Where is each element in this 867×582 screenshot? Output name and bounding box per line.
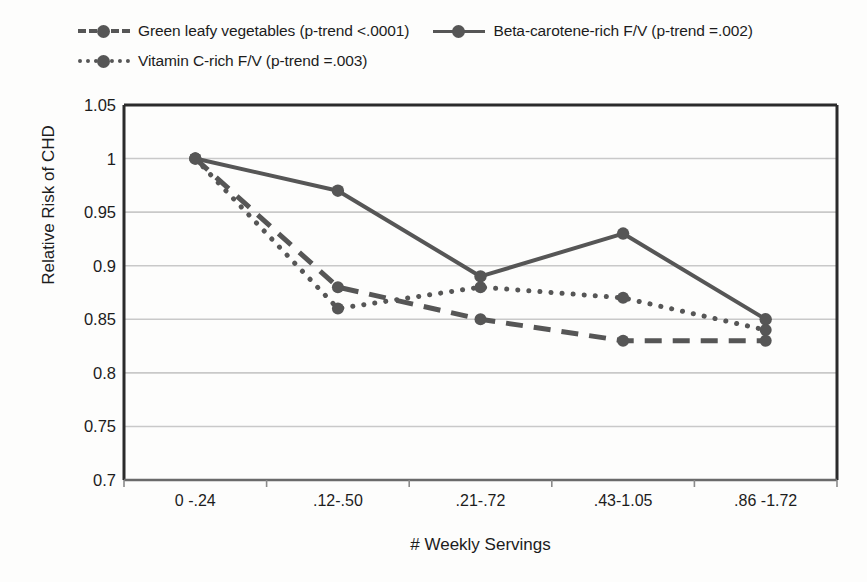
x-tick-label: 0 -.24 xyxy=(175,492,216,510)
x-tick-label: .21-.72 xyxy=(456,492,506,510)
series-line-2 xyxy=(195,159,765,330)
data-point xyxy=(760,324,772,336)
data-point xyxy=(475,313,487,325)
plot-area: Relative Risk of CHD 0.70.750.80.850.90.… xyxy=(0,0,867,582)
x-tick-label: .86 -1.72 xyxy=(734,492,797,510)
data-point xyxy=(617,335,629,347)
x-tick-label: .12-.50 xyxy=(313,492,363,510)
data-point xyxy=(475,281,487,293)
data-point xyxy=(617,292,629,304)
data-point xyxy=(332,281,344,293)
data-point xyxy=(332,185,344,197)
data-point xyxy=(332,303,344,315)
x-axis-title: # Weekly Servings xyxy=(124,535,837,555)
data-point xyxy=(760,313,772,325)
chart-figure: Green leafy vegetables (p-trend <.0001) … xyxy=(0,0,867,582)
data-point xyxy=(617,227,629,239)
series-markers xyxy=(189,152,772,346)
data-point xyxy=(189,153,201,165)
x-tick-label: .43-1.05 xyxy=(594,492,653,510)
data-point xyxy=(760,335,772,347)
data-point xyxy=(474,270,486,282)
